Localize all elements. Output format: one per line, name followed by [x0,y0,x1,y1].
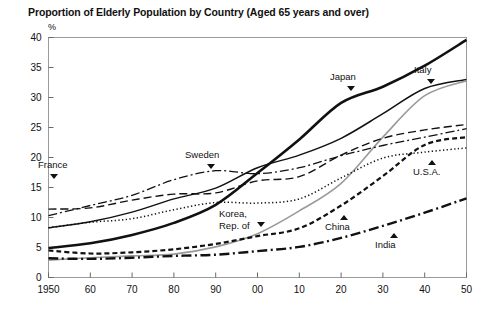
svg-text:10: 10 [294,284,306,295]
series-line-korea-rep-of [49,81,467,260]
series-marker-france [50,174,58,179]
series-line-china [49,137,467,253]
svg-text:70: 70 [127,284,139,295]
series-marker-sweden [207,164,215,169]
plot-frame [49,38,467,278]
series-label-italy: Italy [414,65,431,76]
svg-text:1950: 1950 [37,284,60,295]
series-label-india: India [375,240,396,251]
series-marker-italy [427,79,435,84]
series-label-korea-line2: Rep. of [219,221,250,232]
svg-text:60: 60 [85,284,97,295]
series-label-usa: U.S.A. [413,167,440,178]
series-marker-china [340,215,348,220]
svg-text:20: 20 [336,284,348,295]
series-label-france: France [38,160,68,171]
svg-text:5: 5 [36,242,42,253]
svg-text:50: 50 [461,284,473,295]
series-line-italy [49,80,467,228]
svg-text:15: 15 [30,182,42,193]
chart-container: Proportion of Elderly Population by Coun… [0,0,485,309]
series-label-sweden: Sweden [185,150,219,161]
series-label-china: China [325,222,350,233]
data-series-layer [49,40,467,260]
svg-text:0: 0 [36,272,42,283]
svg-text:00: 00 [252,284,264,295]
series-line-france [49,125,467,210]
svg-text:30: 30 [377,284,389,295]
svg-text:25: 25 [30,122,42,133]
svg-text:80: 80 [168,284,180,295]
series-marker-india [390,233,398,238]
chart-svg: 0510152025303540 19506070809000102030405… [0,0,485,309]
svg-text:35: 35 [30,62,42,73]
svg-text:30: 30 [30,92,42,103]
svg-text:10: 10 [30,212,42,223]
series-marker-japan [347,86,355,91]
series-marker-usa [428,160,436,165]
x-axis-ticks: 195060708090001020304050 [37,273,472,295]
svg-text:90: 90 [210,284,222,295]
svg-text:40: 40 [30,32,42,43]
series-line-india [49,198,467,259]
series-marker-korea [257,222,265,227]
y-axis-ticks: 0510152025303540 [30,32,53,283]
series-label-korea-line1: Korea, [219,209,247,220]
series-label-japan: Japan [330,72,356,83]
svg-text:40: 40 [419,284,431,295]
